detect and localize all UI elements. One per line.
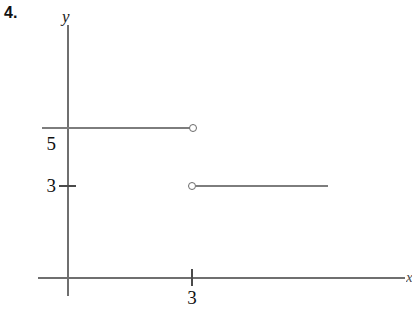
- y-tick-label-3: 3: [36, 176, 56, 195]
- y-tick-label-5: 5: [36, 134, 56, 153]
- function-segment-lower: [196, 185, 328, 187]
- problem-number: 4.: [4, 4, 17, 22]
- function-segment-upper: [42, 127, 193, 129]
- x-tick-3: [191, 269, 193, 286]
- y-axis-label: y: [62, 8, 70, 25]
- graph-figure: 4. y 5 3 3 x: [0, 0, 412, 324]
- open-circle-lower-left: [188, 182, 196, 190]
- y-axis-line: [67, 25, 69, 296]
- x-axis-line: [38, 277, 405, 279]
- open-circle-upper-right: [189, 124, 197, 132]
- y-tick-3: [59, 185, 76, 187]
- x-axis-edge-label: x: [406, 270, 412, 285]
- x-tick-label-3: 3: [182, 288, 202, 307]
